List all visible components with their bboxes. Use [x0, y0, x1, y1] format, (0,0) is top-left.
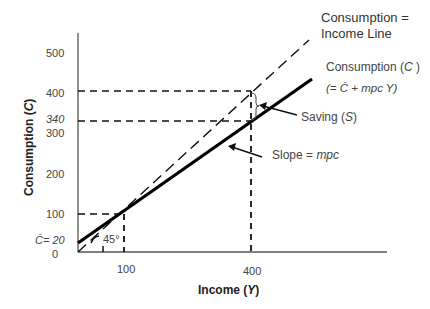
x-axis-title-text: Income (	[198, 283, 247, 297]
income-line-label-2: Income Line	[321, 27, 392, 40]
slope-label: Slope = mpc	[272, 149, 339, 161]
slope-arrow	[232, 147, 262, 157]
consumption-label-text: Consumption (	[326, 60, 404, 74]
slope-label-mpc: mpc	[316, 148, 339, 162]
saving-label-close: )	[353, 110, 357, 124]
y-axis-title-c: C	[22, 103, 36, 112]
y-tick-300: 300	[46, 128, 64, 139]
income-line-label-1: Consumption =	[321, 11, 409, 24]
y-axis-title-close: )	[22, 99, 36, 103]
saving-label-s: S	[345, 110, 353, 124]
y-tick-340: 340	[46, 114, 64, 125]
y-tick-200: 200	[46, 169, 64, 180]
angle-label: 45°	[103, 234, 120, 245]
slope-arrowhead	[228, 143, 236, 151]
consumption-label-c: C	[404, 60, 413, 74]
saving-arrowhead	[259, 102, 267, 110]
slope-label-text: Slope =	[272, 148, 316, 162]
angle-arc	[91, 236, 99, 243]
x-axis-title: Income (Y)	[198, 283, 259, 297]
consumption-label: Consumption (C )	[326, 61, 420, 73]
x-axis-title-close: )	[255, 283, 259, 297]
y-tick-500: 500	[46, 48, 64, 59]
chart-canvas	[0, 0, 430, 309]
y-tick-0: 0	[52, 249, 58, 260]
x-tick-400: 400	[243, 266, 261, 277]
y-axis-title-text: Consumption (	[22, 111, 36, 196]
saving-label-text: Saving (	[301, 110, 345, 124]
x-tick-100: 100	[117, 264, 135, 275]
y-axis-title: Consumption (C)	[22, 99, 36, 196]
consumption-formula: (= C̄ + mpc Y)	[326, 83, 397, 95]
y-tick-cbar: C̄= 20	[35, 235, 65, 246]
y-tick-100: 100	[46, 209, 64, 220]
y-tick-400: 400	[46, 88, 64, 99]
consumption-label-close: )	[413, 60, 420, 74]
saving-label: Saving (S)	[301, 111, 357, 123]
